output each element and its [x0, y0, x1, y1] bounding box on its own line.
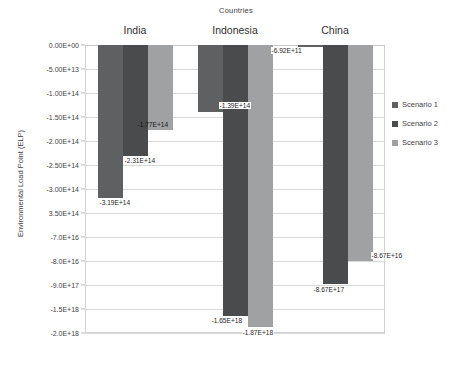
chart-container: Countries Environmental Load Point (ELP)… [0, 0, 472, 366]
y-tick-mark [81, 141, 85, 142]
data-label-china-scenario-3: -8.67E+16 [371, 252, 404, 259]
data-label-india-scenario-2: -2.31E+14 [124, 157, 157, 164]
x-axis-label-china: China [321, 24, 348, 36]
y-tick-mark [81, 309, 85, 310]
data-label-indonesia-scenario-3: -1.87E+18 [242, 329, 275, 336]
bar-india-scenario-2[interactable] [123, 45, 148, 156]
y-tick-mark [81, 117, 85, 118]
y-tick-mark [81, 285, 85, 286]
bar-india-scenario-1[interactable] [98, 45, 123, 198]
y-tick-label: -2.00E+14 [47, 138, 80, 145]
x-axis-label-indonesia: Indonesia [212, 24, 258, 36]
legend-swatch-icon [392, 121, 398, 127]
legend-label: Scenario 1 [402, 100, 438, 109]
y-tick-mark [81, 165, 85, 166]
y-tick-label: -3.00E+14 [47, 186, 80, 193]
legend-item-scenario-3[interactable]: Scenario 3 [392, 138, 438, 147]
gridline [85, 333, 385, 334]
y-tick-label: -2.0E+18 [50, 330, 79, 337]
y-tick-mark [81, 333, 85, 334]
x-axis-label-india: India [124, 24, 147, 36]
plot-area: 0.00E+00-5.00E+13-1.00E+14-1.50E+14-2.00… [85, 45, 385, 333]
legend-swatch-icon [392, 140, 398, 146]
data-label-indonesia-scenario-2: -1.65E+18 [211, 317, 244, 324]
legend-label: Scenario 2 [402, 119, 438, 128]
data-label-india-scenario-1: -3.19E+14 [99, 199, 132, 206]
y-tick-label: -1.5E+18 [50, 306, 79, 313]
y-tick-mark [81, 45, 85, 46]
bar-indonesia-scenario-3[interactable] [248, 45, 273, 327]
bar-china-scenario-2[interactable] [323, 45, 348, 284]
y-tick-label: -5.00E+13 [47, 66, 80, 73]
y-tick-label: -2.50E+14 [47, 162, 80, 169]
y-tick-label: -7.0E+16 [50, 234, 79, 241]
y-tick-mark [81, 261, 85, 262]
y-tick-label: -1.00E+14 [47, 90, 80, 97]
y-tick-label: -1.50E+14 [47, 114, 80, 121]
chart-title: Countries [0, 6, 472, 15]
data-label-indonesia-scenario-1: -1.39E+14 [219, 102, 252, 109]
y-tick-mark [81, 237, 85, 238]
legend-label: Scenario 3 [402, 138, 438, 147]
y-tick-label: -8.0E+16 [50, 258, 79, 265]
bar-indonesia-scenario-2[interactable] [223, 45, 248, 316]
y-tick-label: 3.50E+14 [49, 210, 79, 217]
y-axis-title-text: Environmental Load Point (ELP) [17, 129, 26, 236]
legend-swatch-icon [392, 102, 398, 108]
legend-item-scenario-2[interactable]: Scenario 2 [392, 119, 438, 128]
data-label-india-scenario-3: -1.77E+14 [137, 121, 170, 128]
y-tick-mark [81, 69, 85, 70]
y-axis-title: Environmental Load Point (ELP) [14, 0, 28, 366]
y-tick-mark [81, 189, 85, 190]
legend-item-scenario-1[interactable]: Scenario 1 [392, 100, 438, 109]
data-label-china-scenario-2: -8.67E+17 [313, 286, 346, 293]
bar-india-scenario-3[interactable] [148, 45, 173, 130]
legend: Scenario 1Scenario 2Scenario 3 [392, 100, 438, 157]
y-tick-label: 0.00E+00 [49, 42, 79, 49]
y-tick-mark [81, 213, 85, 214]
data-label-china-scenario-1: -6.92E+11 [271, 47, 303, 54]
y-tick-mark [81, 93, 85, 94]
y-tick-label: -9.0E+17 [50, 282, 79, 289]
bar-china-scenario-3[interactable] [348, 45, 373, 261]
